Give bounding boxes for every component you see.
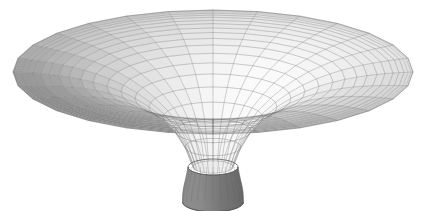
figure-canvas: [0, 0, 423, 211]
funnel-surface-plot: [0, 0, 423, 211]
